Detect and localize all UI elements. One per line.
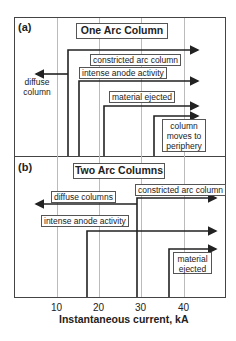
periphery-line-2: moves to	[163, 131, 205, 141]
x-tick-10: 10	[51, 302, 62, 313]
ejected-line-1: material	[174, 254, 211, 264]
x-tick-20: 20	[93, 302, 104, 313]
periphery-line-1: column	[163, 121, 205, 131]
label-constricted-arc-column-a: constricted arc column	[90, 54, 181, 66]
panel-a-label: (a)	[18, 21, 31, 33]
panel-a-title: One Arc Column	[76, 23, 168, 39]
label-intense-anode-activity-b: intense anode activity	[41, 215, 129, 227]
label-diffuse-column-a-1: diffuse	[22, 77, 52, 87]
label-diffuse-columns-b: diffuse columns	[51, 191, 116, 203]
periphery-line-3: periphery	[163, 141, 205, 151]
x-tick-30: 30	[135, 302, 146, 313]
label-constricted-arc-column-b: constricted arc column	[135, 184, 226, 196]
label-column-moves-to-periphery: column moves to periphery	[162, 119, 206, 152]
label-material-ejected-b: material ejected	[173, 252, 212, 274]
label-material-ejected-a: material ejected	[109, 91, 175, 103]
ejected-line-2: ejected	[174, 264, 211, 274]
x-axis-label: Instantaneous current, kA	[59, 313, 189, 325]
figure: (a) One Arc Column constricted arc colum…	[0, 0, 236, 341]
label-diffuse-column-a-2: column	[22, 87, 52, 97]
panel-b-title: Two Arc Columns	[73, 163, 165, 179]
panel-b-label: (b)	[18, 161, 32, 173]
label-intense-anode-activity-a: intense anode activity	[79, 67, 167, 79]
x-tick-40: 40	[178, 302, 189, 313]
